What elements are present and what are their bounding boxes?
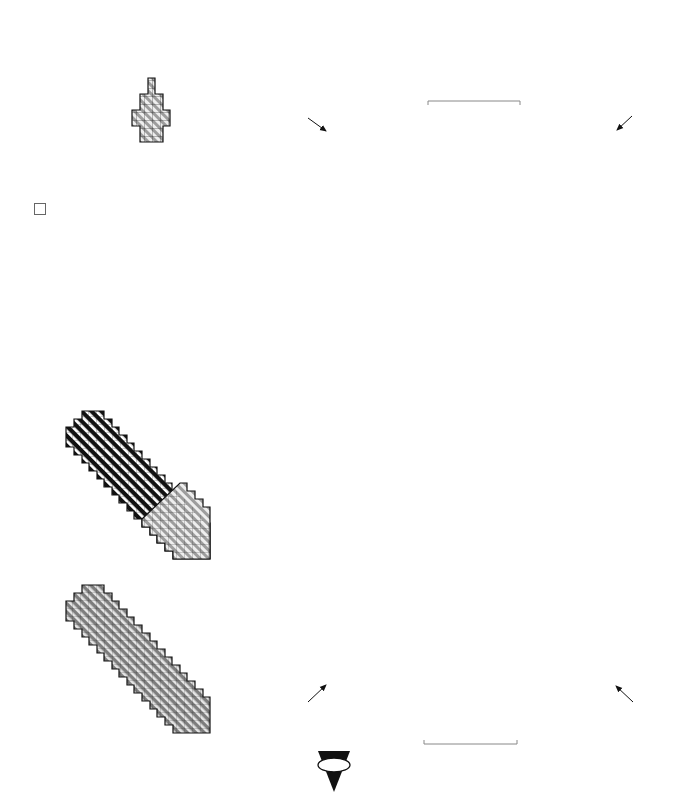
arm-2-chart bbox=[66, 585, 210, 733]
elf-ear-chart bbox=[132, 78, 170, 142]
stitch-key-item-backstitch bbox=[33, 344, 49, 358]
stitch-key-item-nose bbox=[33, 358, 49, 372]
pattern-graphics bbox=[0, 0, 688, 794]
page-number-badge bbox=[318, 751, 350, 792]
swatch-gold bbox=[34, 203, 46, 215]
arm-1-chart bbox=[66, 411, 210, 559]
